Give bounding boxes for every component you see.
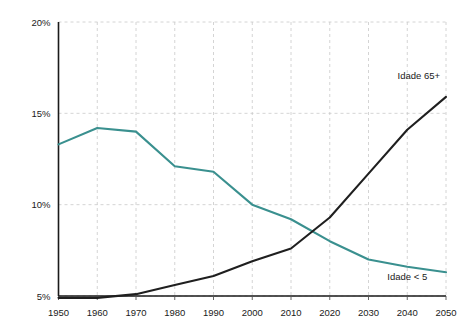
- x-tick-label: 2000: [242, 307, 263, 318]
- horizontal-gridlines: [59, 22, 447, 296]
- x-tick-label: 2020: [319, 307, 340, 318]
- x-tick-label: 2010: [280, 307, 301, 318]
- x-tick-label: 1950: [48, 307, 69, 318]
- series-annotations: Idade 65+ Idade < 5: [387, 70, 440, 283]
- axis-lines: [59, 22, 447, 296]
- x-tick-label: 2030: [358, 307, 379, 318]
- x-tick-label: 1990: [203, 307, 224, 318]
- y-tick-label: 20%: [31, 17, 51, 28]
- series-label-65-plus: Idade 65+: [398, 70, 441, 81]
- x-axis-tick-labels: 1950196019701980199020002010202020302040…: [48, 307, 457, 318]
- series-label-under-5: Idade < 5: [387, 271, 427, 282]
- y-axis-tick-labels: 5%10%15%20%: [31, 17, 51, 302]
- x-tick-label: 2050: [435, 307, 456, 318]
- chart-canvas: 5%10%15%20% 1950196019701980199020002010…: [0, 0, 461, 334]
- vertical-gridlines: [59, 22, 447, 296]
- x-tick-label: 1970: [125, 307, 146, 318]
- x-tick-label: 1960: [87, 307, 108, 318]
- x-tick-label: 2040: [397, 307, 418, 318]
- line-chart: 5%10%15%20% 1950196019701980199020002010…: [0, 0, 461, 334]
- x-tick-label: 1980: [164, 307, 185, 318]
- y-tick-label: 5%: [37, 291, 51, 302]
- y-tick-label: 15%: [31, 108, 51, 119]
- y-tick-label: 10%: [31, 199, 51, 210]
